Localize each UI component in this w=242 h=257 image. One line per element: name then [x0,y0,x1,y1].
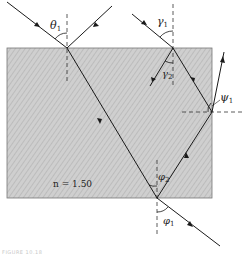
label-psi1: ψ1 [220,91,233,105]
arrow-icon [34,22,40,27]
ray-left-reflected [67,6,112,48]
arrow-icon [220,56,225,63]
label-theta1: θ1 [50,19,61,33]
label-phi1: φ1 [163,215,174,228]
arc-phi1 [157,207,168,212]
refraction-diagram: θ1 γ1 γ2 ψ1 φ2 φ1 n = 1.50 [0,0,242,257]
ray-right-incident [132,14,173,48]
arc-theta1 [55,33,67,39]
glass-block [7,48,212,198]
label-gamma1: γ1 [157,15,168,29]
psi1-leader [212,100,220,106]
refractive-index-label: n = 1.50 [53,179,92,189]
arc-gamma1 [160,31,173,37]
figure-caption: FIGURE 10.18 [2,249,42,255]
